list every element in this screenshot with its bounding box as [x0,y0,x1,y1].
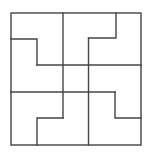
notch-bottom-left [37,118,63,145]
notch-top-left [11,39,37,65]
outer-square [11,13,141,145]
pinwheel-square-diagram [0,0,145,153]
notch-bottom-right [115,92,141,118]
notch-top-right [89,13,117,38]
